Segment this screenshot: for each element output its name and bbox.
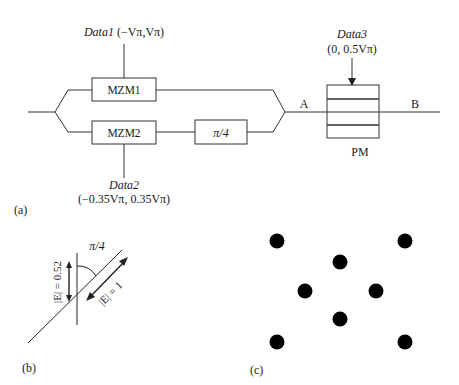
panel-a-label: (a) [14, 203, 27, 217]
mzm2-label: MZM2 [107, 127, 140, 139]
panel-c-label: (c) [250, 363, 263, 377]
data3-range: (0, 0.5Vπ) [327, 42, 377, 56]
data2-range: (−0.35Vπ, 0.35Vπ) [78, 192, 170, 206]
constellation-point [333, 255, 348, 270]
arrowhead-up-icon [66, 261, 72, 268]
panel-a [28, 44, 440, 178]
constellation-point [270, 335, 285, 350]
constellation-point [270, 234, 285, 249]
panel-b-label: (b) [22, 361, 36, 375]
data3-name: Data3 [336, 27, 367, 41]
constellation-point [369, 284, 384, 299]
constellation-point [398, 335, 413, 350]
arrowhead-ne-icon [119, 257, 128, 266]
constellation-point [298, 284, 313, 299]
data1-label: Data1 (−Vπ,Vπ) [83, 25, 164, 39]
phase-shifter-label: π/4 [213, 126, 228, 140]
diagram-canvas: Data1 (−Vπ,Vπ) MZM1 MZM2 π/4 Data2 (−0.3… [0, 0, 459, 385]
splitter-lower-arm [55, 112, 92, 132]
panel-c [270, 234, 413, 350]
data2-name: Data2 [108, 178, 139, 192]
combiner-upper-arm [156, 90, 285, 112]
constellation-point [398, 234, 413, 249]
vertical-magnitude-label: |E| = 0.52 [51, 261, 63, 303]
pm-label: PM [351, 145, 369, 159]
splitter-upper-arm [55, 90, 92, 112]
point-b-label: B [411, 97, 419, 111]
angle-label: π/4 [89, 239, 104, 253]
combiner-lower-arm [247, 112, 285, 132]
angle-arc [77, 266, 96, 276]
mzm1-label: MZM1 [107, 84, 140, 96]
diagonal-magnitude-label: |E| = 1 [96, 279, 125, 308]
constellation-point [333, 312, 348, 327]
point-a-label: A [300, 97, 309, 111]
